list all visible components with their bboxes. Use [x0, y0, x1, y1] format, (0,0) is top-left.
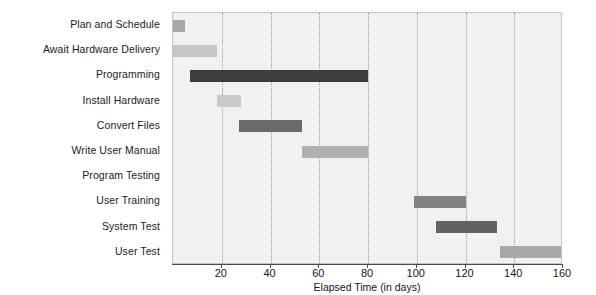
- x-axis-title: Elapsed Time (in days): [172, 281, 562, 293]
- gantt-bar: [500, 246, 562, 258]
- gantt-bar: [173, 45, 217, 57]
- x-tick-label: 80: [361, 267, 373, 279]
- gantt-bar: [239, 120, 302, 132]
- x-tick-label: 40: [263, 267, 275, 279]
- x-tick-label: 140: [504, 267, 522, 279]
- category-label: Program Testing: [82, 163, 160, 188]
- category-label: Await Hardware Delivery: [43, 37, 160, 62]
- category-label: Programming: [96, 62, 160, 87]
- gantt-chart: Plan and ScheduleAwait Hardware Delivery…: [0, 0, 596, 295]
- category-label: User Test: [115, 239, 160, 264]
- category-label: User Training: [96, 188, 160, 213]
- gantt-bar: [436, 221, 497, 233]
- x-tick-label: 20: [215, 267, 227, 279]
- gantt-bar: [302, 146, 368, 158]
- gridline-40: [271, 13, 272, 263]
- gantt-bar: [173, 20, 185, 32]
- gridline-140: [514, 13, 515, 263]
- gridline-20: [222, 13, 223, 263]
- x-tick-label: 100: [407, 267, 425, 279]
- category-label: Convert Files: [97, 113, 160, 138]
- gridline-80: [368, 13, 369, 263]
- category-label: Write User Manual: [72, 138, 160, 163]
- gantt-bar: [190, 70, 368, 82]
- gantt-bar: [414, 196, 465, 208]
- x-tick-label: 160: [553, 267, 571, 279]
- plot-area: [172, 12, 562, 264]
- x-tick-label: 60: [312, 267, 324, 279]
- gridline-100: [417, 13, 418, 263]
- x-tick-label: 120: [455, 267, 473, 279]
- category-label: Install Hardware: [83, 88, 160, 113]
- category-axis-labels: Plan and ScheduleAwait Hardware Delivery…: [0, 12, 166, 264]
- gantt-bar: [217, 95, 241, 107]
- category-label: Plan and Schedule: [70, 12, 160, 37]
- category-label: System Test: [102, 214, 160, 239]
- gridline-60: [319, 13, 320, 263]
